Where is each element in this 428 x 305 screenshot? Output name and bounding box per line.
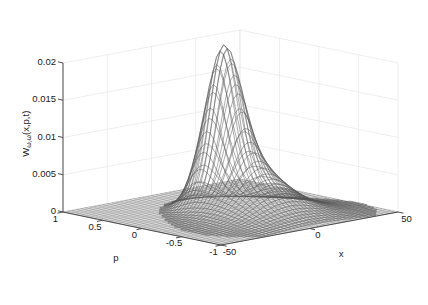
x-tick-label-0: -50 [223,246,237,257]
p-tick-label-4: -1 [209,246,217,257]
back-wall-gridlines [63,30,398,212]
wigner-surface-figure: 00.0050.010.0150.0210.50-0.5-1-50050 x p… [0,0,428,305]
p-axis-label: p [113,252,118,263]
x-axis-label: x [339,248,344,259]
plot-canvas: 00.0050.010.0150.0210.50-0.5-1-50050 x p… [0,0,428,305]
z-tick-label-3: 0.015 [32,93,56,104]
x-tick-label-1: 0 [315,229,320,240]
z-axis-label: Wω,ω(x,p,t) [20,111,32,157]
z-tick-label-2: 0.01 [38,131,57,142]
p-tick-label-0: 1 [53,213,58,224]
x-tick-label-2: 50 [401,213,412,224]
z-tick-label-1: 0.005 [32,168,56,179]
z-tick-label-4: 0.02 [38,56,57,67]
p-tick-label-2: 0 [132,229,137,240]
p-tick-label-3: -0.5 [166,237,182,248]
p-tick-label-1: 0.5 [88,221,101,232]
